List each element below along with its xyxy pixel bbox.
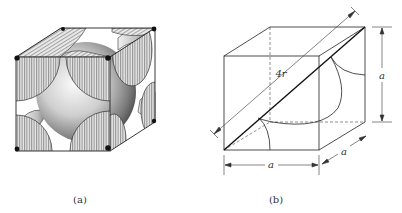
label-depth-a: a <box>341 146 347 157</box>
caption-a: (a) <box>73 194 87 205</box>
panel-b-fcc-geometry: 4r a a a (b) <box>210 7 392 205</box>
atom-arcs <box>258 57 365 150</box>
face-diagonal <box>224 27 365 150</box>
label-4r: 4r <box>274 68 287 79</box>
label-width-a: a <box>268 159 274 170</box>
label-height-a: a <box>379 70 385 81</box>
figure-canvas: (a) 4r <box>0 0 402 213</box>
panel-a-fcc-hard-sphere-cell: (a) <box>0 13 169 205</box>
caption-b: (b) <box>269 194 283 205</box>
